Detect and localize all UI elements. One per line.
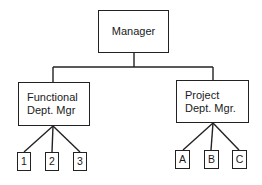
- project-child-b: B: [204, 150, 219, 169]
- functional-dept-mgr-node: Functional Dept. Mgr: [18, 82, 90, 126]
- manager-label: Manager: [112, 25, 155, 38]
- child-label: 3: [77, 155, 83, 168]
- edge-project-a: [183, 123, 213, 150]
- project-dept-mgr-node: Project Dept. Mgr.: [176, 80, 249, 123]
- functional-child-2: 2: [45, 152, 59, 171]
- child-label: 2: [49, 155, 55, 168]
- child-label: B: [208, 153, 215, 166]
- functional-label-line2: Dept. Mgr: [27, 104, 78, 117]
- functional-child-3: 3: [73, 152, 87, 171]
- functional-child-1: 1: [17, 152, 31, 171]
- edge-project-b: [211, 123, 213, 150]
- child-label: 1: [21, 155, 27, 168]
- project-label-line2: Dept. Mgr.: [185, 102, 236, 115]
- child-label: A: [179, 153, 186, 166]
- edge-functional-2: [52, 126, 53, 152]
- manager-node: Manager: [98, 10, 169, 53]
- edge-functional-1: [24, 126, 53, 152]
- project-label-line1: Project: [185, 89, 236, 102]
- child-label: C: [236, 153, 244, 166]
- edge-functional-3: [53, 126, 80, 152]
- functional-label-line1: Functional: [27, 91, 78, 104]
- project-child-c: C: [232, 150, 247, 169]
- project-child-a: A: [175, 150, 190, 169]
- edge-project-c: [213, 123, 239, 150]
